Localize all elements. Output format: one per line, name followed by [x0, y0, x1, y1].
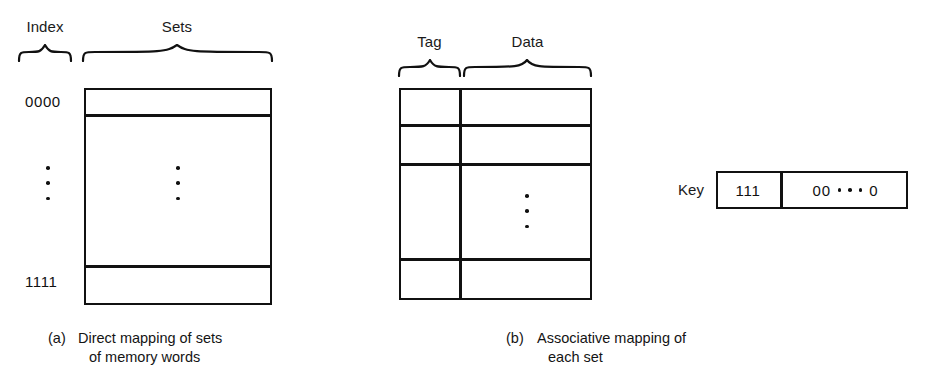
panel-b-caption-marker: (b) — [506, 329, 524, 348]
key-data-suffix: 0 — [869, 182, 878, 199]
key-data-value: 00 0 — [783, 171, 908, 209]
key-data-ellipsis-icon — [831, 188, 870, 192]
panel-a-index-first: 0000 — [25, 93, 61, 110]
panel-a-sets-header: Sets — [82, 18, 272, 35]
key-label: Key — [678, 181, 704, 198]
panel-a-index-ellipsis-icon — [45, 166, 51, 200]
panel-b-row-divider-2 — [399, 163, 592, 166]
panel-b-caption-line-2: each set — [548, 348, 603, 367]
panel-a-sets-brace-icon — [81, 44, 274, 62]
panel-b-data-brace-icon — [462, 59, 593, 77]
panel-a-sets-ellipsis-icon — [175, 166, 181, 200]
panel-b-column-divider — [459, 88, 462, 300]
panel-b-row-divider-3 — [399, 258, 592, 261]
panel-b-associative-table — [399, 88, 592, 300]
panel-a-caption-line-1: Direct mapping of sets — [78, 329, 222, 348]
key-data-prefix: 00 — [813, 182, 831, 199]
panel-a-row-divider-top — [84, 114, 272, 117]
panel-b-data-header: Data — [463, 33, 592, 50]
panel-a-row-divider-bottom — [84, 265, 272, 268]
panel-b-tag-header: Tag — [398, 33, 461, 50]
panel-a-caption-line-2: of memory words — [89, 348, 200, 367]
key-tag-value: 111 — [716, 171, 780, 209]
panel-a-index-last: 1111 — [25, 273, 57, 290]
panel-b-data-ellipsis-icon — [524, 194, 530, 228]
panel-a-index-header: Index — [18, 18, 72, 35]
panel-a-caption-marker: (a) — [48, 329, 66, 348]
panel-b-tag-brace-icon — [397, 59, 462, 77]
figure-canvas: Index Sets 0000 1111 (a) Direct mapping … — [0, 0, 925, 386]
panel-b-row-divider-1 — [399, 124, 592, 127]
panel-b-caption-line-1: Associative mapping of — [537, 329, 686, 348]
panel-a-index-brace-icon — [17, 44, 73, 62]
